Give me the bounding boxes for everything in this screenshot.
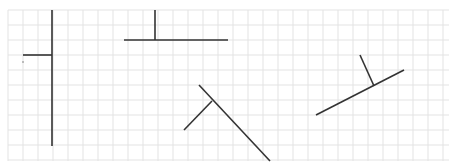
grid-diagram bbox=[0, 0, 452, 165]
dot-mark bbox=[22, 61, 24, 63]
grid-lines bbox=[8, 10, 449, 161]
diagonal-shape-center bbox=[184, 85, 270, 161]
line-segment bbox=[316, 70, 404, 115]
line-segment bbox=[199, 85, 270, 161]
